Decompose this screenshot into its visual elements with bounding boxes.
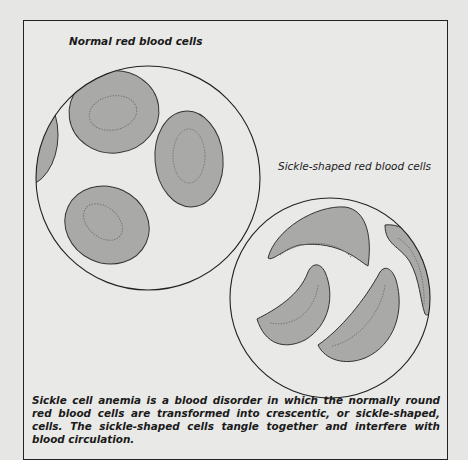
normal-cells-view: [0, 65, 260, 290]
normal-cell: [64, 65, 165, 159]
normal-cell: [151, 108, 227, 210]
sickle-cell: [318, 268, 399, 361]
sickle-cell: [257, 265, 330, 345]
figure-caption: Sickle cell anemia is a blood disorder i…: [32, 394, 440, 446]
normal-cell: [52, 172, 162, 277]
sickle-cells-view: [230, 198, 432, 398]
normal-cell: [0, 83, 58, 187]
sickle-cell: [268, 207, 369, 266]
